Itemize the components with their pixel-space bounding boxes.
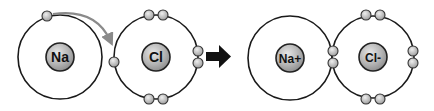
atom-label: Na [51,49,69,65]
atom-na-ion: Na+ [248,16,332,100]
atom-cl: Cl [109,10,203,104]
electron [361,94,371,104]
electron [375,94,385,104]
electron [109,57,119,67]
electron [158,10,168,20]
electron [328,58,338,68]
atom-na: Na [18,11,102,99]
atom-label: Cl [149,49,163,65]
ionic-bond-diagram: NaClNa+Cl- [0,0,434,111]
electron [144,94,154,104]
electron [375,10,385,20]
electron [193,46,203,56]
electron [408,58,418,68]
electron [361,10,371,20]
electron-transfer-arrow [53,13,110,40]
electron [328,46,338,56]
atom-cl-ion: Cl- [328,10,418,104]
atom-label: Na+ [279,52,301,66]
electron [42,11,52,21]
electron [193,58,203,68]
electron [158,94,168,104]
reaction-arrow-icon [206,45,231,68]
atom-label: Cl- [365,51,381,65]
electron [144,10,154,20]
electron [408,46,418,56]
